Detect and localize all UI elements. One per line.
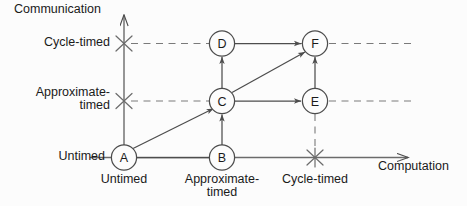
node-b-label: B [218, 151, 226, 165]
node-f[interactable]: F [302, 31, 327, 56]
node-c[interactable]: C [209, 88, 234, 113]
edge-c-to-f [232, 52, 305, 93]
node-c-label: C [217, 95, 226, 109]
x-tick-label-cycle-timed: Cycle-timed [263, 173, 367, 187]
node-a[interactable]: A [111, 145, 136, 170]
edge-a-to-c [133, 109, 214, 149]
node-f-label: F [311, 37, 319, 51]
node-e[interactable]: E [302, 88, 327, 113]
x-tick-label-approximate-timed-line2: timed [164, 186, 280, 200]
guide-lines [131, 44, 411, 151]
diagram-canvas: A B C D E F Communicatio [0, 0, 467, 206]
node-d[interactable]: D [209, 31, 234, 56]
x-tick-label-untimed: Untimed [74, 173, 174, 187]
y-axis-title: Communication [14, 3, 101, 17]
y-tick-label-approximate-timed-line2: timed [0, 99, 110, 113]
node-a-label: A [120, 151, 129, 165]
y-tick-label-cycle-timed: Cycle-timed [0, 36, 110, 50]
node-d-label: D [217, 37, 226, 51]
x-axis-title: Computation [378, 160, 449, 174]
node-e-label: E [311, 95, 319, 109]
node-b[interactable]: B [209, 145, 234, 170]
y-tick-label-untimed: Untimed [0, 150, 105, 164]
